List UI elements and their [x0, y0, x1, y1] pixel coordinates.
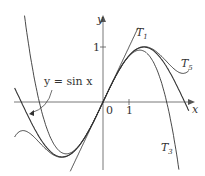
y-axis-label: y — [97, 14, 103, 25]
x-tick-1-label: 1 — [126, 105, 133, 116]
x-axis-label: x — [192, 104, 198, 115]
t1-label: T1 — [136, 27, 148, 41]
t5-label: T5 — [181, 58, 193, 72]
plot-area — [0, 0, 205, 176]
sin-curve-label: y = sin x — [44, 76, 92, 87]
t3-curve — [25, 16, 179, 170]
t3-label: T3 — [161, 142, 173, 156]
origin-label: 0 — [106, 105, 113, 116]
pointer-arrow-icon — [29, 110, 34, 116]
taylor-polynomials-figure: y x 0 1 1 y = sin x T1 T5 T3 — [0, 0, 205, 176]
y-tick-1-label: 1 — [93, 42, 100, 53]
